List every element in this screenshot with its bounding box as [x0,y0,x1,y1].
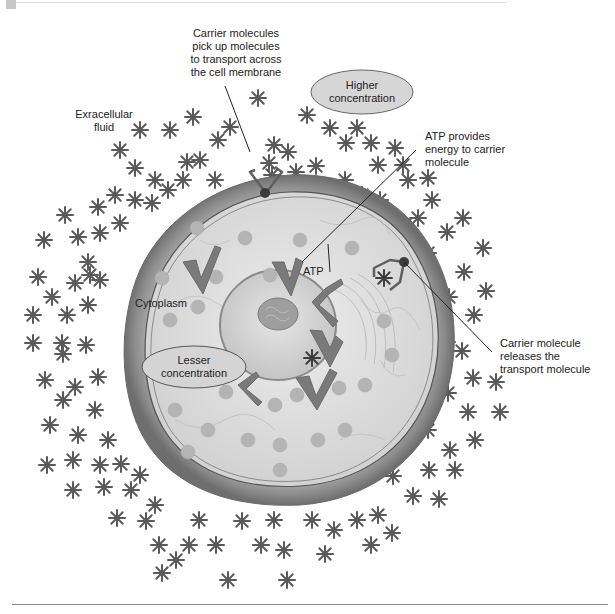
internal-molecule [304,350,320,366]
lesser-concentration-label: Lesser concentration [142,346,246,388]
carrier-pickup-line-2: pick up molecules [170,40,302,53]
footer-rule [12,604,608,605]
higher-line-1: Higher [329,79,395,92]
extracellular-line-2: fluid [66,121,142,134]
nucleolus [258,298,298,330]
lesser-line-2: concentration [161,367,227,380]
higher-line-2: concentration [329,92,395,105]
carrier-pickup-line-4: the cell membrane [170,66,302,79]
higher-concentration-label: Higher concentration [311,71,413,113]
released-molecule [376,270,392,286]
atp-provides-line-3: molecule [425,156,565,169]
carrier-release-label: Carrier molecule releases the transport … [500,337,615,376]
atp-provides-label: ATP provides energy to carrier molecule [425,130,565,169]
cytoplasm-label: Cytoplasm [135,297,187,310]
atp-provides-line-1: ATP provides [425,130,565,143]
extracellular-fluid-label: Exracellular fluid [66,108,142,134]
lesser-line-1: Lesser [161,354,227,367]
carrier-release-line-3: transport molecule [500,363,615,376]
extracellular-line-1: Exracellular [66,108,142,121]
carrier-head-top [260,188,270,198]
carried-molecule-top [261,155,277,171]
carrier-pickup-label: Carrier molecules pick up molecules to t… [170,27,302,79]
carrier-release-line-1: Carrier molecule [500,337,615,350]
atp-provides-line-2: energy to carrier [425,143,565,156]
atp-label: ATP [303,265,324,278]
carrier-pickup-line-1: Carrier molecules [170,27,302,40]
cell-diagram [0,0,615,614]
carrier-pickup-line-3: to transport across [170,53,302,66]
carrier-release-line-2: releases the [500,350,615,363]
